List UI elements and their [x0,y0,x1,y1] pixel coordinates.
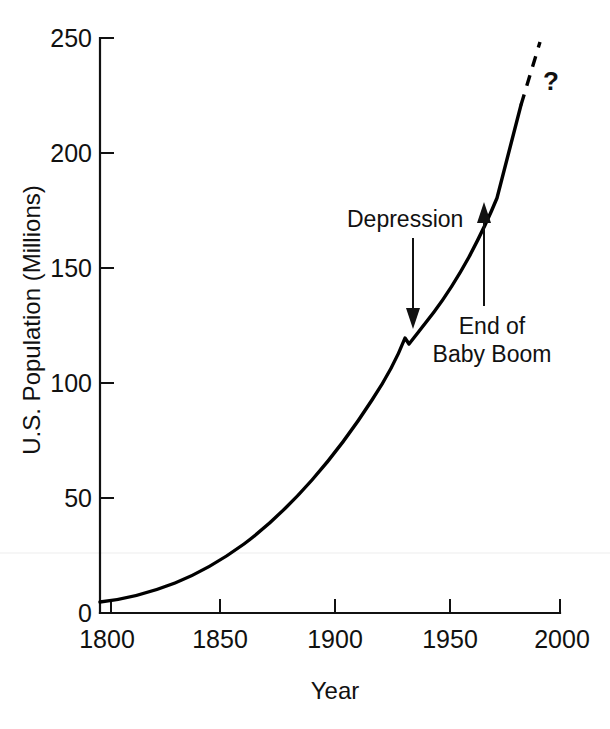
x-tick-label-1800: 1800 [79,625,135,653]
y-tick-label-0: 0 [78,599,92,627]
x-tick-label-2000: 2000 [534,625,590,653]
population-curve-projection [521,42,540,105]
annotation-babyboom-label-line1: End of [459,313,526,339]
x-tick-label-1850: 1850 [192,625,248,653]
x-axis-title: Year [311,677,360,704]
y-tick-label-200: 200 [50,139,92,167]
population-chart: 250 200 150 100 50 0 1800 1850 1900 1950… [0,0,610,729]
y-axis-title: U.S. Population (Millions) [18,185,45,454]
y-tick-label-50: 50 [64,484,92,512]
annotation-depression-arrow-head [406,308,420,329]
y-tick-label-100: 100 [50,369,92,397]
annotation-depression-label: Depression [347,206,463,232]
annotation-babyboom-label-line2: Baby Boom [433,341,552,367]
projection-question-mark: ? [543,66,559,96]
chart-svg: 250 200 150 100 50 0 1800 1850 1900 1950… [0,0,610,729]
y-tick-label-150: 150 [50,254,92,282]
y-tick-label-250: 250 [50,24,92,52]
x-tick-label-1900: 1900 [307,625,363,653]
annotation-babyboom-arrow-head [477,202,491,223]
x-tick-label-1950: 1950 [422,625,478,653]
